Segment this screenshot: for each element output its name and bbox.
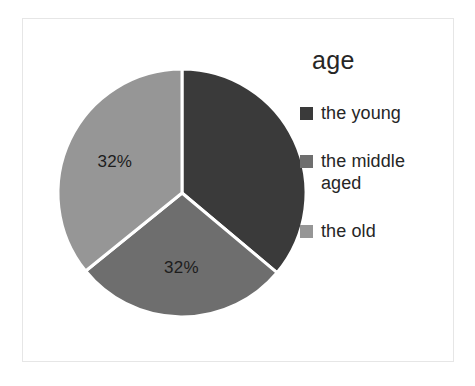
legend-label-the-young: the young <box>321 103 401 125</box>
legend-label-the-middle-aged: the middle aged <box>321 151 449 195</box>
legend-item-the-middle-aged[interactable]: the middle aged <box>300 151 450 195</box>
pie-slice-group <box>58 69 306 317</box>
pie-chart-figure: 32%32% age the young the middle aged the… <box>0 0 475 386</box>
legend-label-the-old: the old <box>321 221 376 243</box>
legend-title: age <box>312 47 450 73</box>
pie-data-label-the-middle-aged: 32% <box>164 258 199 277</box>
pie-plot-area: 32%32% <box>52 63 312 323</box>
pie-svg: 32%32% <box>52 63 312 323</box>
legend-swatch-the-young <box>300 107 313 120</box>
legend-item-the-young[interactable]: the young <box>300 103 450 125</box>
legend-swatch-the-old <box>300 225 313 238</box>
pie-data-label-the-old: 32% <box>97 152 132 171</box>
chart-legend: age the young the middle aged the old <box>300 47 450 269</box>
legend-swatch-the-middle-aged <box>300 155 313 168</box>
legend-item-the-old[interactable]: the old <box>300 221 450 243</box>
